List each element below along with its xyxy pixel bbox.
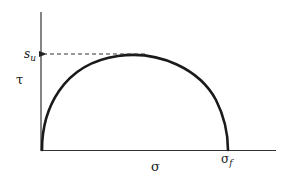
failure-arc [42, 55, 228, 150]
failure-stress-label: σf [221, 152, 234, 168]
diagram-canvas: su τ σ σf [0, 0, 289, 177]
x-axis-label: σ [151, 159, 160, 174]
y-axis-label: τ [16, 72, 23, 87]
peak-shear-label: su [24, 47, 36, 63]
